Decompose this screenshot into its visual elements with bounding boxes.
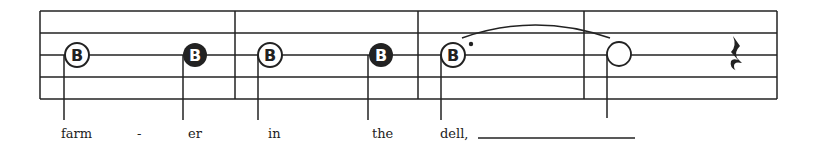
tie-arc: [462, 25, 610, 38]
lyric-syllable: the: [372, 126, 393, 142]
lyric-syllable: er: [188, 126, 202, 142]
lyric-syllable: in: [268, 126, 281, 142]
note-quarter-b: B: [183, 43, 207, 120]
lyric-syllable: dell,: [440, 126, 468, 142]
staff-lines: [40, 11, 777, 99]
note-half-b: B: [258, 43, 282, 120]
svg-text:B: B: [447, 46, 459, 65]
note-half-b: B: [64, 43, 89, 120]
music-staff: B B B B B: [0, 0, 817, 149]
svg-text:B: B: [264, 46, 276, 65]
note-dotted-half-b: B: [441, 42, 473, 120]
augmentation-dot: [469, 42, 473, 46]
note-quarter-b: B: [368, 43, 393, 120]
lyric-hyphen: -: [137, 126, 141, 142]
lyric-syllable: farm: [61, 126, 92, 142]
svg-text:B: B: [375, 46, 387, 65]
note-half-tied: [607, 42, 631, 118]
quarter-rest-icon: [731, 36, 742, 71]
svg-text:B: B: [189, 46, 201, 65]
svg-text:B: B: [71, 46, 83, 65]
